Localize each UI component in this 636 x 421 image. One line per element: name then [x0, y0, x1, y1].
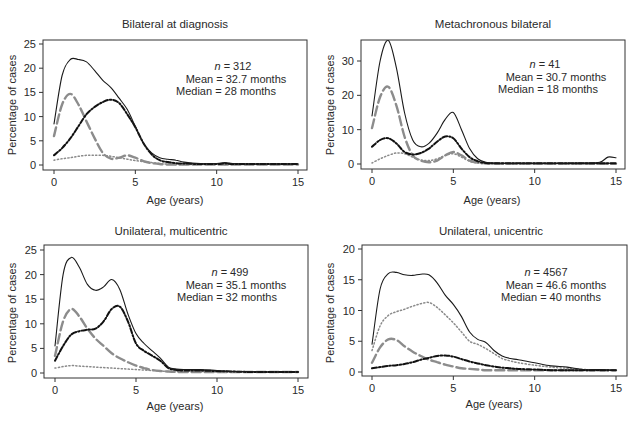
annotation-n: n= 41 [530, 58, 561, 70]
x-tick-label: 0 [369, 175, 375, 187]
x-tick-label: 5 [450, 382, 456, 394]
x-tick-label: 15 [610, 382, 622, 394]
y-tick-label: 0 [349, 366, 355, 378]
annotation-mean: Mean = 46.6 months [506, 279, 607, 291]
panel-title: Unilateral, multicentric [114, 225, 227, 237]
x-tick-label: 10 [211, 384, 223, 396]
x-tick-label: 15 [292, 384, 304, 396]
y-axis-label: Percentage of cases [6, 262, 18, 363]
y-tick-label: 20 [25, 269, 37, 281]
plot-area [372, 40, 616, 163]
annotation-n: n= 4567 [524, 266, 567, 278]
x-tick-label: 10 [211, 176, 223, 188]
series-line-series-3 [55, 306, 298, 372]
panel-metachronous-bilateral: Metachronous bilateral Percentage of cas… [324, 18, 625, 206]
figure: Bilateral at diagnosis Percentage of cas… [0, 0, 636, 421]
y-tick-label: 25 [24, 38, 36, 50]
series-line-series-3 [54, 100, 298, 164]
series-line-series-4 [372, 302, 616, 370]
panel-bilateral-at-diagnosis: Bilateral at diagnosis Percentage of cas… [6, 18, 307, 206]
y-axis-label: Percentage of cases [324, 54, 336, 155]
y-axis-label: Percentage of cases [324, 262, 336, 363]
y-tick-label: 0 [348, 158, 354, 170]
y-tick-label: 0 [31, 367, 37, 379]
panel-title: Bilateral at diagnosis [122, 18, 228, 30]
annotation-median: Median = 28 months [176, 85, 276, 97]
y-tick-label: 20 [342, 89, 354, 101]
plot-area [55, 257, 298, 372]
series-line-series-2 [54, 94, 298, 165]
series-line-series-2 [372, 87, 616, 164]
y-axis-label: Percentage of cases [6, 54, 18, 155]
x-axis-label: Age (years) [466, 398, 523, 410]
series-line-series-3 [372, 355, 616, 370]
annotation-n: n= 312 [215, 60, 252, 72]
x-tick-label: 0 [51, 176, 57, 188]
y-tick-label: 15 [25, 293, 37, 305]
panel-unilateral-unicentric: Unilateral, unicentric Percentage of cas… [324, 225, 627, 410]
x-tick-label: 5 [132, 176, 138, 188]
x-tick-label: 10 [529, 175, 541, 187]
panel-unilateral-multicentric: Unilateral, multicentric Percentage of c… [6, 225, 308, 412]
y-tick-label: 15 [343, 274, 355, 286]
x-axis-label: Age (years) [464, 194, 521, 206]
y-tick-label: 15 [24, 86, 36, 98]
plot-frame [44, 245, 308, 378]
annotation-mean: Mean = 35.1 months [186, 279, 287, 291]
annotation-mean: Mean = 32.7 months [186, 73, 287, 85]
x-axis-label: Age (years) [147, 194, 204, 206]
y-tick-label: 10 [343, 305, 355, 317]
annotation-median: Median = 40 months [501, 291, 601, 303]
x-tick-label: 10 [529, 382, 541, 394]
y-tick-label: 20 [343, 243, 355, 255]
y-tick-label: 5 [31, 342, 37, 354]
y-tick-label: 20 [24, 62, 36, 74]
x-tick-label: 15 [292, 176, 304, 188]
annotation-mean: Mean = 30.7 months [506, 71, 607, 83]
y-tick-label: 10 [24, 111, 36, 123]
annotation-median: Median = 18 months [498, 83, 598, 95]
series-line-series-2 [55, 309, 298, 372]
x-axis-label: Age (years) [147, 400, 204, 412]
x-tick-label: 0 [52, 384, 58, 396]
x-tick-label: 15 [610, 175, 622, 187]
y-tick-label: 0 [30, 159, 36, 171]
y-tick-label: 30 [342, 55, 354, 67]
y-tick-label: 5 [349, 335, 355, 347]
panel-title: Unilateral, unicentric [439, 225, 543, 237]
plot-frame [361, 40, 625, 169]
series-line-total [55, 257, 298, 372]
x-tick-label: 5 [450, 175, 456, 187]
panel-title: Metachronous bilateral [435, 18, 551, 30]
x-tick-label: 5 [133, 384, 139, 396]
y-tick-label: 25 [25, 244, 37, 256]
plot-frame [43, 40, 307, 170]
y-tick-label: 10 [342, 124, 354, 136]
x-tick-label: 0 [369, 382, 375, 394]
annotation-n: n= 499 [212, 266, 249, 278]
y-tick-label: 10 [25, 318, 37, 330]
y-tick-label: 5 [30, 135, 36, 147]
series-line-series-2 [372, 339, 616, 370]
annotation-median: Median = 32 months [177, 291, 277, 303]
